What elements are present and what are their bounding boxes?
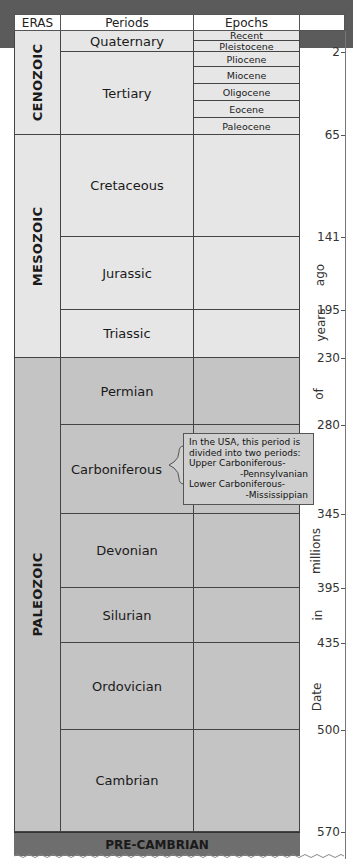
epoch-paleocene: Paleocene bbox=[194, 118, 300, 135]
period-tertiary: Tertiary bbox=[61, 52, 194, 135]
callout-line: -Pennsylvanian bbox=[189, 469, 308, 480]
epoch-oligocene: Oligocene bbox=[194, 84, 300, 101]
wavy-bottom-edge bbox=[14, 853, 345, 859]
epoch-cell-triassic bbox=[194, 310, 300, 358]
epoch-cell-devonian bbox=[194, 514, 300, 588]
epoch-recent: Recent bbox=[194, 31, 300, 41]
tick-65: 65 bbox=[300, 129, 345, 141]
epoch-cell-permian bbox=[194, 358, 300, 425]
header-epochs: Epochs bbox=[194, 14, 300, 31]
callout-line: Upper Carboniferous- bbox=[189, 458, 308, 469]
tick-280: 280 bbox=[300, 419, 345, 431]
epoch-cell-silurian bbox=[194, 588, 300, 643]
period-jurassic: Jurassic bbox=[61, 237, 194, 310]
epoch-pleistocene: Pleistocene bbox=[194, 41, 300, 52]
era-mesozoic: MESOZOIC bbox=[14, 135, 61, 358]
period-ordovician: Ordovician bbox=[61, 643, 194, 730]
era-label: MESOZOIC bbox=[30, 206, 45, 286]
callout-line: divided into two periods: bbox=[189, 448, 308, 459]
axis-word-date: Date bbox=[310, 683, 324, 712]
period-cambrian: Cambrian bbox=[61, 730, 194, 832]
callout-line: Lower Carboniferous- bbox=[189, 479, 308, 490]
tick-345: 345 bbox=[300, 508, 345, 520]
callout-line: In the USA, this period is bbox=[189, 437, 308, 448]
period-cretaceous: Cretaceous bbox=[61, 135, 194, 237]
tick-2: 2 bbox=[300, 46, 345, 58]
epoch-cell-cambrian bbox=[194, 730, 300, 832]
tick-435: 435 bbox=[300, 637, 345, 649]
epoch-cell-cretaceous bbox=[194, 135, 300, 237]
period-devonian: Devonian bbox=[61, 514, 194, 588]
era-label: PALEOZOIC bbox=[30, 552, 45, 636]
tick-395: 395 bbox=[300, 582, 345, 594]
period-triassic: Triassic bbox=[61, 310, 194, 358]
axis-word-in: in bbox=[311, 610, 325, 621]
epoch-cell-jurassic bbox=[194, 237, 300, 310]
tick-230: 230 bbox=[300, 352, 345, 364]
tick-141: 141 bbox=[300, 231, 345, 243]
axis-word-of: of bbox=[312, 388, 326, 400]
carboniferous-note-callout: In the USA, this period is divided into … bbox=[183, 433, 314, 505]
epoch-eocene: Eocene bbox=[194, 101, 300, 118]
period-permian: Permian bbox=[61, 358, 194, 425]
header-periods: Periods bbox=[61, 14, 194, 31]
epoch-cell-ordovician bbox=[194, 643, 300, 730]
epoch-miocene: Miocene bbox=[194, 67, 300, 84]
period-silurian: Silurian bbox=[61, 588, 194, 643]
axis-word-years: years bbox=[314, 308, 328, 341]
tick-570: 570 bbox=[300, 826, 345, 838]
era-label: CENOZOIC bbox=[30, 44, 45, 122]
axis-word-ago: ago bbox=[313, 264, 327, 286]
header-eras: ERAS bbox=[14, 14, 61, 31]
epoch-pliocene: Pliocene bbox=[194, 52, 300, 67]
axis-word-millions: millions bbox=[309, 528, 323, 574]
period-quaternary: Quaternary bbox=[61, 31, 194, 52]
header-blank bbox=[300, 14, 345, 31]
era-paleozoic: PALEOZOIC bbox=[14, 358, 61, 832]
tick-500: 500 bbox=[300, 724, 345, 736]
era-cenozoic: CENOZOIC bbox=[14, 31, 61, 135]
callout-line: -Mississippian bbox=[189, 490, 308, 501]
